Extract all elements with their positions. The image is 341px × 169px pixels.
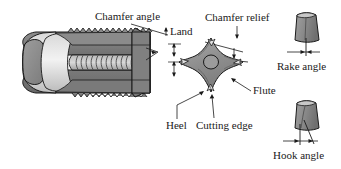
leader-cutting-edge (212, 96, 214, 118)
center-hole (204, 55, 219, 69)
rake-angle-detail (287, 13, 320, 56)
label-cutting-edge: Cutting edge (196, 120, 253, 131)
hook-angle-detail (283, 101, 319, 145)
label-land: Land (170, 26, 193, 37)
label-hook-angle: Hook angle (273, 150, 324, 161)
label-chamfer-angle: Chamfer angle (95, 11, 160, 22)
tap-body-isometric (23, 28, 153, 97)
tap-cross-section-four-flute (179, 38, 243, 92)
label-chamfer-relief: Chamfer relief (205, 12, 269, 23)
label-rake-angle: Rake angle (277, 61, 326, 72)
figure-tap-nomenclature: Chamfer angle Land Chamfer relief Flute … (0, 0, 341, 169)
label-heel: Heel (166, 120, 187, 131)
label-flute: Flute (253, 85, 276, 96)
leader-flute (232, 79, 251, 91)
leader-heel (177, 92, 203, 119)
